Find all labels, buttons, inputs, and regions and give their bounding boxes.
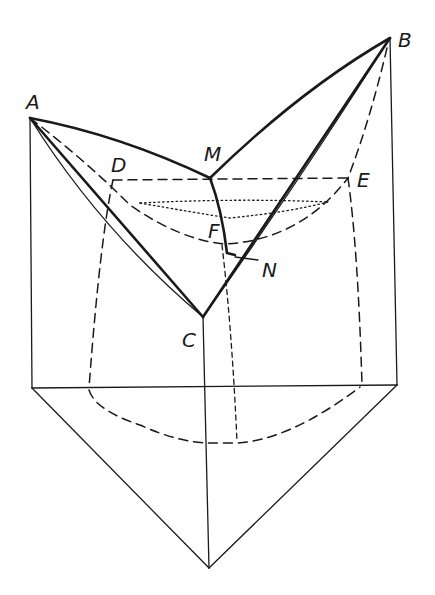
- curve-M-B: [210, 38, 390, 178]
- edge-A-C: [30, 118, 203, 317]
- base-left-edge: [32, 388, 209, 568]
- dashed-line-DE: [113, 178, 348, 180]
- base-dashed-curve: [89, 387, 360, 443]
- label-N: N: [262, 260, 277, 280]
- label-A: A: [26, 92, 40, 112]
- dashed-vertical-right: [348, 178, 362, 385]
- label-F: F: [208, 221, 220, 241]
- label-C: C: [182, 330, 196, 350]
- pointer-N: [235, 257, 258, 260]
- diagram-canvas: [0, 0, 435, 595]
- geometry-diagram: A B M D E F N C: [0, 0, 435, 595]
- dashed-curve-A-E: [30, 118, 348, 244]
- edge-right-vertical: [390, 38, 397, 385]
- dotted-curve-lower: [140, 202, 328, 218]
- label-E: E: [357, 170, 370, 190]
- label-D: D: [111, 155, 126, 175]
- dotted-curve-upper: [140, 200, 328, 203]
- edge-left-vertical: [30, 118, 32, 388]
- dashed-vertical-center: [222, 245, 237, 442]
- base-right-edge: [209, 385, 397, 568]
- label-B: B: [398, 30, 412, 50]
- base-back-edge: [32, 385, 397, 388]
- dashed-line-B-E: [348, 48, 387, 178]
- label-M: M: [204, 144, 221, 164]
